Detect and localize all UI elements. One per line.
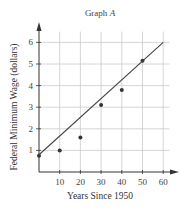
data-point <box>120 88 124 92</box>
x-axis-arrow-icon <box>170 170 179 175</box>
x-axis-label: Years Since 1950 <box>67 191 133 201</box>
tick-label-y: 4 <box>29 81 34 91</box>
tick-label-y: 3 <box>29 102 34 112</box>
series <box>37 42 163 157</box>
axes <box>36 22 179 175</box>
y-axis-arrow-icon <box>37 22 42 31</box>
data-point <box>58 148 62 152</box>
y-axis-label: Federal Minimum Wage (dollars) <box>9 43 20 170</box>
tick-label-x: 60 <box>159 177 169 187</box>
tick-label-x: 50 <box>138 177 148 187</box>
tick-labels: 102030405060123456 <box>29 37 169 187</box>
tick-label-y: 2 <box>29 124 34 134</box>
data-point <box>78 135 82 139</box>
tick-label-y: 5 <box>29 59 34 69</box>
tick-label-x: 40 <box>117 177 127 187</box>
tick-label-y: 6 <box>29 37 34 47</box>
tick-label-x: 10 <box>55 177 65 187</box>
tick-label-x: 20 <box>76 177 86 187</box>
data-point <box>99 103 103 107</box>
tick-label-x: 30 <box>97 177 107 187</box>
tick-label-y: 1 <box>29 145 34 155</box>
chart: Graph A 102030405060123456 Years Since 1… <box>0 0 191 214</box>
chart-title: Graph A <box>85 8 116 18</box>
